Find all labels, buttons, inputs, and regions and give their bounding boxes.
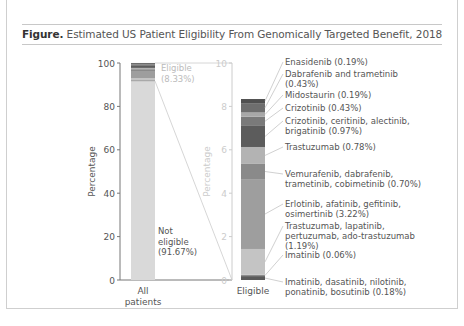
left-label-not-eligible: Not <box>158 226 174 236</box>
right-y-tick-label: 0 <box>221 276 227 286</box>
left-y-tick-label: 40 <box>104 189 116 199</box>
right-bar-segment <box>241 126 265 147</box>
right-leader-line <box>265 278 283 282</box>
left-label-eligible: Eligible <box>161 63 192 73</box>
right-y-tick-label: 6 <box>221 145 227 155</box>
left-bar-eligible-subsegment <box>131 66 155 68</box>
left-label-not-eligible: (91.67%) <box>158 247 197 257</box>
right-bar-segment <box>241 275 265 276</box>
right-bar-segment <box>241 276 265 280</box>
right-leader-line <box>265 74 283 108</box>
right-segment-label: Vemurafenib, dabrafenib, <box>285 169 393 179</box>
right-bar-segment <box>241 249 265 275</box>
right-segment-label: brigatinib (0.97%) <box>285 126 362 136</box>
left-bar-eligible-subsegment <box>131 71 155 78</box>
right-segment-label: trametinib, cobimetinib (0.70%) <box>285 179 421 189</box>
left-bar-eligible-subsegment <box>131 68 155 70</box>
right-y-tick-label: 2 <box>221 232 227 242</box>
left-category-label: patients <box>125 297 162 307</box>
left-y-tick-label: 80 <box>104 102 116 112</box>
right-segment-label: Midostaurin (0.19%) <box>285 90 371 100</box>
right-leader-line <box>265 147 283 155</box>
right-segment-label: (0.43%) <box>285 79 319 89</box>
left-y-tick-label: 20 <box>104 232 116 242</box>
right-leader-line <box>265 226 283 262</box>
right-segment-label: Crizotinib (0.43%) <box>285 103 362 113</box>
right-bar-segment <box>241 117 265 126</box>
right-segment-label: osimertinib (3.22%) <box>285 209 369 219</box>
left-category-label: All <box>137 286 148 296</box>
right-bar-segment <box>241 99 265 103</box>
left-bar-eligible-subsegment <box>131 69 155 71</box>
left-bar-eligible-subsegment <box>131 65 155 66</box>
right-leader-line <box>265 255 283 275</box>
left-bar-segment-not-eligible <box>131 81 155 280</box>
right-leader-line <box>265 172 283 175</box>
left-y-tick-label: 0 <box>109 276 115 286</box>
right-leader-line <box>265 95 283 115</box>
left-label-not-eligible: eligible <box>158 237 189 247</box>
left-y-axis-label: Percentage <box>87 146 97 197</box>
left-y-tick-label: 100 <box>98 59 115 69</box>
right-segment-label: Trastuzumab (0.78%) <box>284 142 376 152</box>
right-bar-segment <box>241 164 265 179</box>
right-segment-label: Trastuzumab, lapatinib, <box>284 221 385 231</box>
right-y-axis-label: Percentage <box>202 146 212 197</box>
right-segment-label: Enasidenib (0.19%) <box>285 57 368 67</box>
eligibility-chart: 020406080100PercentageAllpatientsEligibl… <box>0 0 464 326</box>
right-bar-segment <box>241 147 265 164</box>
right-y-tick-label: 8 <box>221 102 227 112</box>
right-segment-label: Imatinib, dasatinib, nilotinib, <box>285 277 407 287</box>
left-y-tick-label: 60 <box>104 145 116 155</box>
right-category-label: Eligible <box>237 286 270 296</box>
left-label-eligible: (8.33%) <box>161 74 195 84</box>
right-segment-label: Erlotinib, afatinib, gefitinib, <box>285 199 401 209</box>
right-segment-label: Dabrafenib and trametinib <box>285 69 398 79</box>
left-bar-eligible-subsegment <box>131 78 155 81</box>
left-bar-eligible-subsegment <box>131 63 155 64</box>
right-segment-label: ponatinib, bosutinib (0.18%) <box>285 287 406 297</box>
right-y-tick-label: 10 <box>216 59 228 69</box>
right-bar-segment <box>241 103 265 112</box>
right-leader-line <box>265 121 283 136</box>
right-bar-segment <box>241 179 265 249</box>
right-segment-label: pertuzumab, ado-trastuzumab <box>285 231 415 241</box>
right-segment-label: (1.19%) <box>285 241 319 251</box>
right-bar-segment <box>241 112 265 116</box>
right-leader-line <box>265 62 283 101</box>
right-y-tick-label: 4 <box>221 189 227 199</box>
right-segment-label: Imatinib (0.06%) <box>285 250 356 260</box>
right-segment-label: Crizotinib, ceritinib, alectinib, <box>285 116 410 126</box>
right-leader-line <box>265 204 283 214</box>
right-leader-line <box>265 108 283 121</box>
